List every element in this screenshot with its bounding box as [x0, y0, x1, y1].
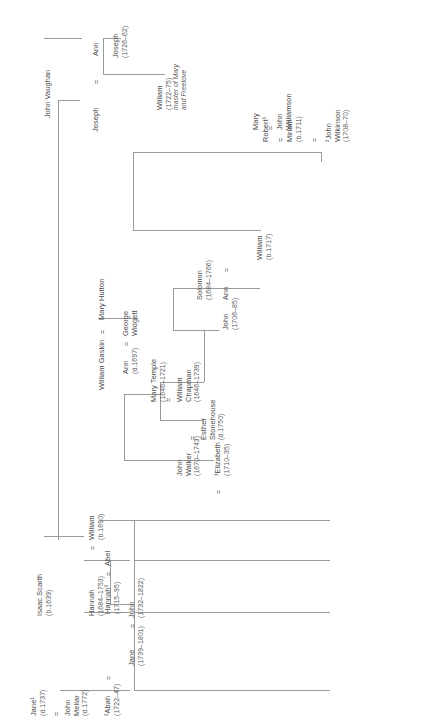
person-name: William Gaskin — [98, 340, 107, 390]
person-dates: (1722–47) — [113, 684, 121, 716]
connector-line — [133, 152, 321, 153]
connector-line — [134, 520, 330, 521]
person-william-1722: William (1722–75) master of Mary and Fre… — [156, 64, 188, 110]
person-name: Mary — [252, 113, 261, 130]
person-name: ¹Elizabeth — [214, 442, 223, 476]
person-william-gaskin: William Gaskin — [98, 340, 107, 390]
connector-line — [58, 100, 80, 101]
connector-line — [134, 612, 330, 613]
person-william-b1717: William (b.1717) — [256, 234, 272, 260]
marriage-symbol: = — [276, 138, 285, 142]
person-jane-d1737: Jane¹ (d.1737) — [30, 690, 46, 716]
person-mary-hutton: Mary Hutton — [98, 279, 107, 320]
person-name: Hannah — [88, 576, 97, 616]
person-abah: ²Abah (1722–47) — [104, 684, 120, 716]
person-dates: (1732–1822) — [137, 578, 145, 618]
person-john-walker: John Walker (1670–1743) — [176, 436, 201, 476]
marriage-symbol: = — [128, 624, 137, 628]
person-dates: (1646–1739) — [193, 362, 201, 402]
person-dates: (1684–1766) — [205, 260, 213, 300]
marriage-symbol: = — [266, 126, 275, 130]
person-dates: (d.1697) — [131, 348, 139, 374]
connector-line — [124, 394, 125, 460]
person-surname: Wilkinson — [334, 109, 343, 142]
marriage-symbol: = — [104, 676, 113, 680]
connector-line — [133, 152, 134, 230]
person-dates: (1670–1743) — [193, 436, 201, 476]
person-ann-widgett: Ann (d.1697) — [122, 348, 138, 374]
marriage-symbol: = — [214, 490, 223, 494]
connector-line — [44, 38, 82, 39]
connector-line — [173, 330, 219, 331]
person-name: Solomon — [196, 260, 205, 300]
person-dates: (1715–95) — [113, 582, 121, 614]
person-name: Ann — [122, 348, 131, 374]
marriage-symbol: = — [52, 712, 61, 716]
person-surname: Stonehouse — [209, 400, 218, 440]
person-surname: Williamson — [285, 93, 294, 130]
person-dates: (b.1639) — [45, 574, 53, 616]
person-solomon: Solomon (1684–1766) — [196, 260, 212, 300]
person-isaac-scarth: Isaac Scarth (b.1639) — [36, 574, 52, 616]
marriage-symbol: = — [188, 436, 197, 440]
person-john-williamson: John Williamson — [276, 93, 293, 130]
person-name: Jane — [128, 626, 137, 666]
person-mary-williamson: Mary — [252, 113, 261, 130]
connector-line — [134, 560, 330, 561]
person-william-chapman: William Chapman (1646–1739) — [176, 362, 201, 402]
person-john-vaughan: John Vaughan — [44, 70, 53, 118]
connector-line — [321, 152, 322, 162]
person-john-wilkinson: ²John Wilkinson (1708–70) — [325, 109, 350, 142]
person-esther-stonehouse: Esther Stonehouse (d.1750) — [200, 400, 225, 440]
marriage-symbol: = — [122, 342, 131, 346]
connector-line — [160, 420, 204, 421]
person-john-1732: John (1732–1822) — [128, 578, 144, 618]
marriage-symbol: = — [92, 80, 101, 84]
person-george-widgett: George Widgett — [122, 310, 139, 336]
person-name: Hannah³ — [104, 582, 113, 614]
person-joseph-jr: Joseph (1726–62) — [112, 26, 128, 58]
person-name: Abel — [104, 551, 113, 566]
connector-line — [103, 38, 104, 74]
person-name: John — [222, 298, 231, 330]
person-dates: (d.1750) — [217, 400, 225, 440]
connector-line — [134, 690, 330, 691]
marriage-symbol: = — [88, 546, 97, 550]
person-dates: (1726–62) — [121, 26, 129, 58]
person-john-mellar: John Mellar (d.1772) — [64, 690, 89, 716]
person-surname: Chapman — [185, 362, 194, 402]
person-name: Joseph — [92, 108, 101, 132]
family-tree-diagram: John Vaughan Ann = Joseph Joseph (1726–6… — [0, 0, 440, 720]
person-ann-vaughan: Ann — [92, 43, 101, 56]
person-dates: (1646–1721) — [159, 359, 167, 402]
person-name: Joseph — [112, 26, 121, 58]
person-name: John Vaughan — [44, 70, 53, 118]
person-dates: (1708–70) — [342, 109, 350, 142]
person-elizabeth: ¹Elizabeth (1710–35) — [214, 442, 230, 476]
person-dates: (1722–75) — [165, 64, 173, 110]
connector-line — [196, 230, 256, 231]
person-william-b1690: William (b.1690) — [88, 514, 104, 540]
connector-line — [100, 520, 134, 521]
person-name: John — [128, 578, 137, 618]
person-joseph-sr: Joseph — [92, 108, 101, 132]
person-name: Ann — [92, 43, 101, 56]
person-dates: (1706–85) — [231, 298, 239, 330]
person-dates: (1710–35) — [223, 442, 231, 476]
person-name: Mary Hutton — [98, 279, 107, 320]
person-dates: (d.1737) — [39, 690, 47, 716]
person-name: William — [88, 514, 97, 540]
person-mary-temple: Mary Temple (1646–1721) — [150, 359, 166, 402]
person-surname: Widgett — [131, 310, 140, 336]
person-name: Ann — [222, 287, 231, 300]
person-name: William — [156, 64, 165, 110]
person-dates: (b.1711) — [295, 116, 303, 142]
person-john-1706: John (1706–85) — [222, 298, 238, 330]
person-ann-solomon: Ann — [222, 287, 231, 300]
person-name: Jane¹ — [30, 690, 39, 716]
marriage-symbol: = — [104, 572, 113, 576]
person-dates: (1739–1801) — [137, 626, 145, 666]
person-jane-1739: Jane (1739–1801) — [128, 626, 144, 666]
person-surname: Walker — [185, 436, 194, 476]
connector-line — [44, 536, 84, 537]
